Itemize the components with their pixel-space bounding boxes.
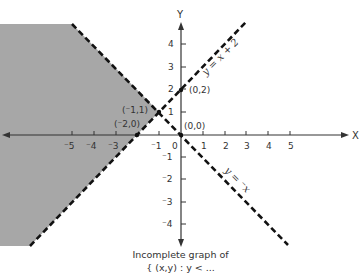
svg-text:⁻1: ⁻1 [162,152,172,162]
svg-text:2: 2 [223,141,229,151]
svg-text:⁻5: ⁻5 [64,141,74,151]
line-label-y-equals-negative-x: y = ⁻x [222,164,253,195]
y-axis-up-arrow-icon [178,22,184,30]
svg-text:⁻4: ⁻4 [162,219,173,229]
line-label-y-equals-x-plus-2: y = x + 2 [199,36,241,78]
x-axis-right-arrow-icon [341,132,349,138]
point-label-neg2-0: (⁻2,0) [114,119,140,129]
figure-caption-continued: { (x,y) : y < ... [0,262,361,273]
svg-text:4: 4 [168,39,174,49]
point-0-0 [179,133,183,137]
svg-text:1: 1 [201,141,207,151]
svg-text:1: 1 [168,107,174,117]
figure-caption: Incomplete graph of [0,249,361,260]
y-axis-down-arrow-icon [178,239,184,247]
point-0-2 [179,88,183,92]
point-neg2-0 [135,133,139,137]
svg-text:⁻3: ⁻3 [108,141,118,151]
point-label-0-0: (0,0) [184,121,205,131]
point-label-neg1-1: (⁻1,1) [122,105,148,115]
svg-text:5: 5 [288,141,294,151]
svg-text:3: 3 [244,141,250,151]
svg-text:⁻1: ⁻1 [151,141,161,151]
svg-text:⁻2: ⁻2 [162,174,172,184]
point-neg1-1 [157,110,161,114]
svg-text:2: 2 [168,84,174,94]
point-label-0-2: (0,2) [189,85,210,95]
svg-text:⁻3: ⁻3 [162,197,172,207]
svg-text:3: 3 [168,62,174,72]
svg-text:⁻4: ⁻4 [86,141,97,151]
svg-text:4: 4 [266,141,272,151]
y-tick-labels: 4 3 2 1 ⁻1 ⁻2 ⁻3 ⁻4 [162,39,174,229]
y-axis-label: Y [176,9,184,20]
x-axis-label: X [352,130,359,141]
svg-text:0: 0 [172,141,178,151]
